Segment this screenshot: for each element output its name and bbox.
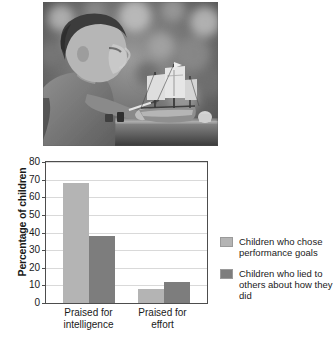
legend-item: Children who chose performance goals: [220, 236, 333, 258]
y-tick-label: 10: [29, 280, 40, 290]
y-tick-mark: [42, 162, 46, 163]
y-tick-label: 70: [29, 175, 40, 185]
legend-item: Children who lied to others about how th…: [220, 268, 333, 301]
y-tick-label: 40: [29, 228, 40, 238]
y-tick-label: 80: [29, 157, 40, 167]
y-tick-mark: [42, 215, 46, 216]
x-category-label: Praised for effort: [118, 307, 208, 330]
legend-swatch-series-1: [220, 237, 233, 247]
y-tick-label: 60: [29, 192, 40, 202]
y-tick-mark: [42, 180, 46, 181]
y-tick-label: 20: [29, 263, 40, 273]
y-tick-label: 30: [29, 245, 40, 255]
y-axis-label: Percentage of children: [16, 152, 28, 292]
photo-boy-building-model-ship: [43, 2, 218, 146]
y-tick-label: 50: [29, 210, 40, 220]
y-tick-mark: [42, 268, 46, 269]
bar: [138, 289, 164, 303]
legend-label-series-2: Children who lied to others about how th…: [239, 268, 333, 301]
y-tick-mark: [42, 233, 46, 234]
gridline: [46, 162, 207, 163]
bar-chart: Percentage of children 01020304050607080…: [0, 152, 335, 344]
y-tick-mark: [42, 285, 46, 286]
y-tick-mark: [42, 250, 46, 251]
photo-illustration: [43, 2, 218, 146]
bar: [164, 282, 190, 303]
plot-area: 01020304050607080: [45, 161, 208, 304]
chart-legend: Children who chose performance goals Chi…: [220, 236, 333, 311]
bar: [89, 236, 115, 303]
y-tick-mark: [42, 197, 46, 198]
gridline: [46, 180, 207, 181]
legend-label-series-1: Children who chose performance goals: [239, 236, 333, 258]
y-tick-label: 0: [34, 298, 40, 308]
y-tick-mark: [42, 303, 46, 304]
legend-swatch-series-2: [220, 269, 233, 279]
bar: [63, 183, 89, 303]
